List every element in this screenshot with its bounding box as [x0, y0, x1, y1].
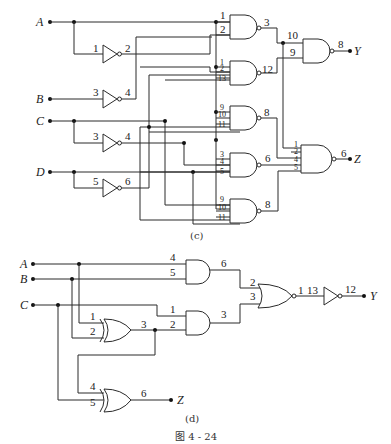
pin-label: 1: [220, 9, 226, 21]
not-gate: 13 12 Y: [307, 283, 378, 305]
input-label-c: C: [36, 114, 45, 128]
wire-b-to-xor: [72, 279, 104, 338]
nand-gate-5: 9 10 11 8: [216, 171, 301, 223]
junction: [182, 141, 186, 145]
pin-label: 10: [218, 110, 226, 119]
pin-label: 4: [125, 130, 131, 142]
output-label-z: Z: [177, 393, 184, 407]
pin-label: 1: [90, 310, 96, 322]
pin-label: 4: [125, 86, 131, 98]
and-gate-1: 4 5 6: [170, 251, 262, 288]
pin-label: 5: [170, 266, 176, 278]
logic-circuit-figure: A B C D 1 2 3 4 3 4: [0, 0, 391, 444]
pin-label: 3: [221, 308, 227, 320]
pin-label: 5: [93, 175, 99, 187]
wire: [140, 67, 240, 72]
pin-label: 5: [90, 396, 96, 408]
wire-a-to-not1: [74, 22, 103, 54]
pin-label: 6: [341, 147, 347, 159]
pin-label: 12: [345, 283, 356, 295]
pin-label: 11: [218, 120, 226, 129]
wire-c: [33, 305, 186, 316]
pin-label: 5: [220, 167, 224, 176]
pin-label: 1: [298, 284, 304, 296]
pin-label: 2: [125, 42, 131, 54]
pin-label: 3: [93, 130, 99, 142]
junction: [163, 119, 167, 123]
wire-d-to-not: [74, 172, 103, 188]
junction: [147, 125, 151, 129]
wire-c-to-xor2: [58, 305, 104, 400]
circuit-d: A B C 1 2 3 4 5 6: [19, 251, 378, 424]
pin-label: 8: [265, 198, 271, 210]
pin-label: 6: [265, 152, 271, 164]
output-label-y: Y: [354, 44, 362, 58]
input-label-c: C: [20, 298, 29, 312]
pin-label: 2: [220, 64, 224, 73]
pin-label: 10: [287, 29, 299, 41]
caption-d: (d): [185, 413, 199, 424]
pin-label: 4: [90, 380, 96, 392]
input-label-a: A: [35, 15, 44, 29]
pin-label: 6: [141, 387, 147, 399]
output-label-y: Y: [370, 289, 378, 303]
pin-label: 2: [250, 276, 256, 288]
pin-label: 3: [250, 290, 256, 302]
pin-label: 8: [264, 106, 270, 118]
pin-label: 5: [294, 163, 298, 172]
pin-label: 6: [221, 257, 227, 269]
pin-label: 3: [93, 86, 99, 98]
pin-label: 2: [220, 23, 226, 35]
pin-label: 4: [170, 251, 176, 263]
not-gate-4: [103, 179, 117, 197]
input-label-a: A: [19, 257, 28, 271]
circuit-c: A B C D 1 2 3 4 3 4: [35, 9, 362, 241]
wire-c-branch: [165, 121, 240, 205]
caption-c: (c): [190, 230, 204, 241]
nand-gate-2: 1 2 13 12: [216, 58, 283, 85]
input-label-b: B: [36, 92, 44, 106]
pin-label: 8: [338, 38, 344, 50]
pin-label: 13: [307, 284, 319, 296]
bubble: [118, 141, 122, 145]
pin-label: 3: [141, 318, 147, 330]
pin-label: 9: [290, 46, 296, 58]
input-label-b: B: [20, 272, 28, 286]
xor-gate-2: 4 5 6 Z: [90, 380, 184, 412]
nand-gate-4: 3 4 5 6: [216, 150, 301, 177]
pin-label: 2: [170, 318, 176, 330]
pin-label: 11: [218, 213, 226, 222]
not-gate-3: [103, 134, 117, 152]
wire-b-not: [122, 37, 212, 99]
bubble: [118, 186, 122, 190]
nand-gate-1: 1 2 3: [216, 9, 283, 43]
pin-label: 2: [90, 325, 96, 337]
figure-title: 图 4 - 24: [175, 431, 217, 442]
not-gate-2: [103, 90, 117, 108]
input-label-d: D: [35, 165, 45, 179]
bubble: [118, 97, 122, 101]
pin-label: 4: [220, 157, 224, 166]
wire-a-not: [122, 35, 240, 54]
nand-gate-y: 10 9 8 Y: [281, 29, 362, 63]
pin-label: 3: [264, 16, 270, 28]
pin-label: 10: [218, 203, 226, 212]
output-label-z: Z: [354, 152, 361, 166]
pin-label: 6: [125, 175, 131, 187]
pin-label: 1: [170, 303, 176, 315]
wire-c-to-not: [74, 121, 103, 143]
bubble: [118, 52, 122, 56]
pin-label: 13: [218, 74, 226, 83]
pin-label: 1: [93, 42, 99, 54]
not-gate-1: [103, 45, 117, 63]
nand-gate-3: 9 10 11 8: [216, 103, 301, 158]
